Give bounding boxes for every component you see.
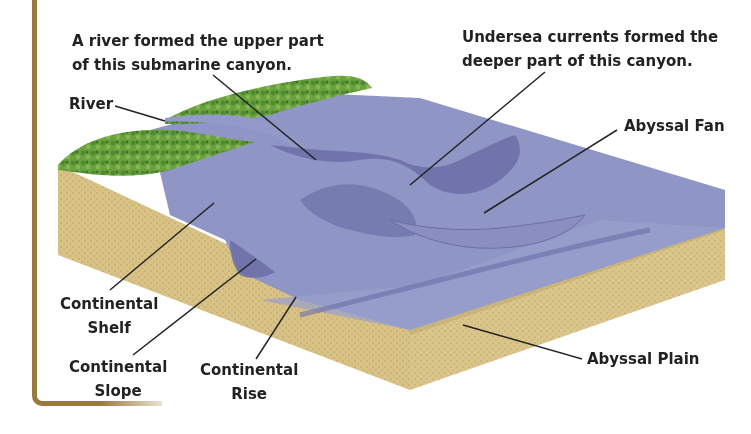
label-continental-slope-line2: Slope xyxy=(69,379,167,403)
label-abyssal-plain: Abyssal Plain xyxy=(587,347,700,371)
annotation-undersea-currents: Undersea currents formed the deeper part… xyxy=(462,25,718,73)
label-continental-rise: Continental Rise xyxy=(200,358,298,406)
annotation-undersea-currents-line2: deeper part of this canyon. xyxy=(462,49,718,73)
label-abyssal-fan: Abyssal Fan xyxy=(624,114,725,138)
label-continental-rise-line2: Rise xyxy=(200,382,298,406)
label-continental-rise-line1: Continental xyxy=(200,358,298,382)
annotation-river-canyon: A river formed the upper part of this su… xyxy=(72,29,324,77)
label-continental-shelf-line1: Continental xyxy=(60,292,158,316)
annotation-river-canyon-line2: of this submarine canyon. xyxy=(72,53,324,77)
label-continental-shelf: Continental Shelf xyxy=(60,292,158,340)
label-river: River xyxy=(69,92,113,116)
label-continental-slope-line1: Continental xyxy=(69,355,167,379)
label-continental-shelf-line2: Shelf xyxy=(60,316,158,340)
annotation-undersea-currents-line1: Undersea currents formed the xyxy=(462,25,718,49)
annotation-river-canyon-line1: A river formed the upper part xyxy=(72,29,324,53)
label-continental-slope: Continental Slope xyxy=(69,355,167,403)
